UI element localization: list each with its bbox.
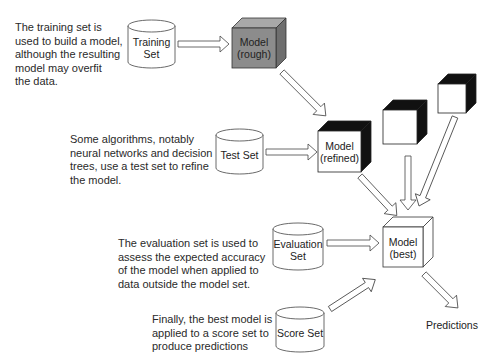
arrow-evaluation-to-best <box>327 235 379 251</box>
label-score-set: Score Set <box>276 327 324 339</box>
label-model-rough: Model (rough) <box>232 36 276 60</box>
candidate-model-cube-1 <box>383 100 427 144</box>
label-model-best: Model (best) <box>383 236 423 260</box>
arrow-rough-to-refined <box>276 66 331 121</box>
label-model-refined: Model (refined) <box>316 140 363 164</box>
candidate-model-cube-2 <box>438 74 476 113</box>
note-evaluation: The evaluation set is used to assess the… <box>118 237 265 291</box>
arrow-test-to-refined <box>266 144 317 160</box>
note-score: Finally, the best model is applied to a … <box>152 313 272 354</box>
arrow-candidate1-to-best <box>400 156 416 210</box>
arrow-best-to-predictions <box>418 268 463 313</box>
arrow-score-to-best <box>326 273 380 316</box>
label-predictions: Predictions <box>420 319 484 331</box>
note-training: The training set is used to build a mode… <box>15 21 123 89</box>
arrow-refined-to-best <box>354 171 403 221</box>
arrow-training-to-rough <box>178 36 229 52</box>
label-evaluation-set: Evaluation Set <box>271 238 325 262</box>
label-test-set: Test Set <box>216 149 263 161</box>
note-test: Some algorithms, notably neural networks… <box>70 133 212 187</box>
label-training-set: Training Set <box>128 36 175 60</box>
